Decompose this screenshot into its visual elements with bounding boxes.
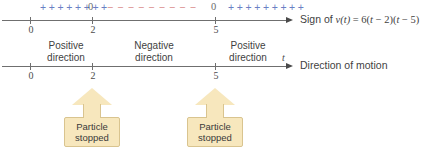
callout-text-line2-1: stopped: [198, 132, 232, 144]
motion-axis-tick-label-0: 0: [21, 70, 41, 81]
sign-caption-equals: = 6(: [350, 14, 370, 25]
callout-text-line2-0: stopped: [75, 132, 109, 144]
motion-axis-tick-2: [92, 63, 93, 70]
sign-axis-tick-label-5: 5: [206, 24, 226, 35]
motion-axis-tick-label-2: 2: [83, 70, 103, 81]
motion-axis-variable-t: t: [282, 52, 285, 63]
motion-region-line2-0: direction: [36, 52, 96, 64]
callout-seam-cover-1: [207, 116, 223, 119]
motion-region-label-positive-left: Positive direction: [36, 40, 96, 63]
sign-row-negative-middle: −−−−−−−−−: [107, 1, 200, 13]
callout-arrowhead-1: [195, 88, 235, 105]
callout-box-0: Particle stopped: [64, 117, 120, 147]
sign-caption-prefix: Sign of: [300, 13, 336, 25]
callout-arrowhead-0: [72, 88, 112, 105]
motion-axis-tick-label-5: 5: [206, 70, 226, 81]
motion-axis-tick-0: [30, 63, 31, 70]
sign-line-group: ++++++++ 0 −−−−−−−−− 0 +++++++++ 0 2 5 S…: [0, 0, 422, 36]
motion-axis-tick-5: [215, 63, 216, 70]
motion-region-line1-0: Positive: [36, 40, 96, 52]
sign-axis-tick-2: [92, 17, 93, 24]
motion-region-label-positive-right: Positive direction: [218, 40, 278, 63]
zero-marker-at-2: 0: [88, 1, 93, 12]
sign-caption-function: v(t): [336, 14, 351, 25]
motion-region-line1-1: Negative: [124, 40, 184, 52]
motion-line-caption: Direction of motion: [300, 59, 388, 71]
callout-box-1: Particle stopped: [187, 117, 243, 147]
sign-axis-tick-label-2: 2: [83, 24, 103, 35]
sign-caption-end: − 5): [399, 14, 419, 25]
sign-axis-tick-label-0: 0: [21, 24, 41, 35]
callout-seam-cover-0: [84, 116, 100, 119]
motion-axis-arrowhead: [286, 63, 293, 69]
motion-region-label-negative-middle: Negative direction: [124, 40, 184, 63]
motion-region-line2-2: direction: [218, 52, 278, 64]
sign-axis-tick-0: [30, 17, 31, 24]
sign-row-positive-right: +++++++++: [228, 1, 307, 13]
motion-region-line1-2: Positive: [218, 40, 278, 52]
motion-axis-line: [2, 66, 286, 67]
motion-region-line2-1: direction: [124, 52, 184, 64]
sign-line-caption: Sign of v(t) = 6(t − 2)(t − 5): [300, 13, 419, 25]
zero-marker-at-5: 0: [211, 1, 216, 12]
callout-text-line1-0: Particle: [76, 121, 108, 133]
sign-row-positive-left: ++++++++: [40, 1, 110, 13]
motion-line-group: Positive direction Negative direction Po…: [0, 40, 422, 80]
sign-caption-mid: − 2)(: [373, 14, 396, 25]
velocity-sign-figure: ++++++++ 0 −−−−−−−−− 0 +++++++++ 0 2 5 S…: [0, 0, 422, 151]
sign-axis-arrowhead: [286, 17, 293, 23]
sign-axis-line: [2, 20, 286, 21]
sign-axis-tick-5: [215, 17, 216, 24]
callout-text-line1-1: Particle: [199, 121, 231, 133]
